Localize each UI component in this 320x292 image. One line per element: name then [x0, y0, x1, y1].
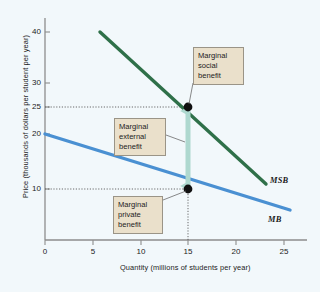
axis-lines	[45, 18, 307, 240]
x-tick-label-25: 25	[274, 247, 294, 256]
leader-line-external	[166, 135, 185, 142]
x-tick-label-10: 10	[131, 247, 151, 256]
leader-line-private	[163, 191, 186, 200]
x-axis-title: Quantity (millions of students per year)	[120, 263, 251, 272]
x-tick-label-15: 15	[178, 247, 198, 256]
marginal-social-benefit-point	[184, 103, 193, 112]
x-tick-label-20: 20	[226, 247, 246, 256]
callout-marginal-social-benefit: Marginal social benefit	[193, 47, 244, 85]
y-axis-ticks	[45, 32, 50, 189]
callout-marginal-external-benefit: Marginal external benefit	[114, 118, 166, 156]
msb-curve-label: MSB	[270, 176, 288, 185]
x-tick-label-0: 0	[35, 247, 55, 256]
callout-marginal-private-benefit: Marginal private benefit	[113, 196, 163, 234]
economics-chart-figure: 40 30 25 20 10 0 5 10 15 20 25 Price (th…	[0, 0, 320, 292]
mb-curve-label: MB	[268, 215, 281, 224]
x-tick-label-5: 5	[83, 247, 103, 256]
x-axis-ticks	[45, 240, 284, 245]
leader-line-social	[189, 83, 193, 104]
y-axis-title: Price (thousands of dollars per student …	[21, 32, 30, 202]
marginal-private-benefit-point	[184, 185, 193, 194]
